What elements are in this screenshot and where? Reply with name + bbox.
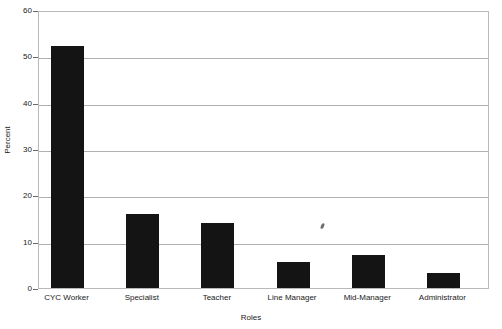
gridline xyxy=(39,151,488,152)
x-axis-tick-label: Administrator xyxy=(392,293,492,303)
plot-area xyxy=(38,11,489,289)
y-axis: 0102030405060 xyxy=(0,0,38,300)
scan-speck-artifact xyxy=(320,223,325,230)
bar xyxy=(201,223,234,288)
x-axis-title: Roles xyxy=(0,313,502,322)
y-axis-tick-label: 0 xyxy=(28,285,32,293)
y-axis-tick-label: 10 xyxy=(23,239,32,247)
bar xyxy=(352,255,385,288)
x-axis: CYC WorkerSpecialistTeacherLine ManagerM… xyxy=(38,293,489,309)
bar-chart: Percent 0102030405060 CYC WorkerSpeciali… xyxy=(0,0,502,329)
bar xyxy=(126,214,159,288)
gridline xyxy=(39,58,488,59)
y-axis-tick-label: 30 xyxy=(23,146,32,154)
gridline xyxy=(39,105,488,106)
y-axis-tick-label: 50 xyxy=(23,53,32,61)
gridline xyxy=(39,197,488,198)
y-axis-tick-mark xyxy=(33,289,38,290)
y-axis-tick-label: 60 xyxy=(23,7,32,15)
gridline xyxy=(39,244,488,245)
y-axis-tick-label: 40 xyxy=(23,100,32,108)
bar xyxy=(427,273,460,288)
y-axis-tick-label: 20 xyxy=(23,192,32,200)
bar xyxy=(277,262,310,288)
bar xyxy=(51,46,84,288)
